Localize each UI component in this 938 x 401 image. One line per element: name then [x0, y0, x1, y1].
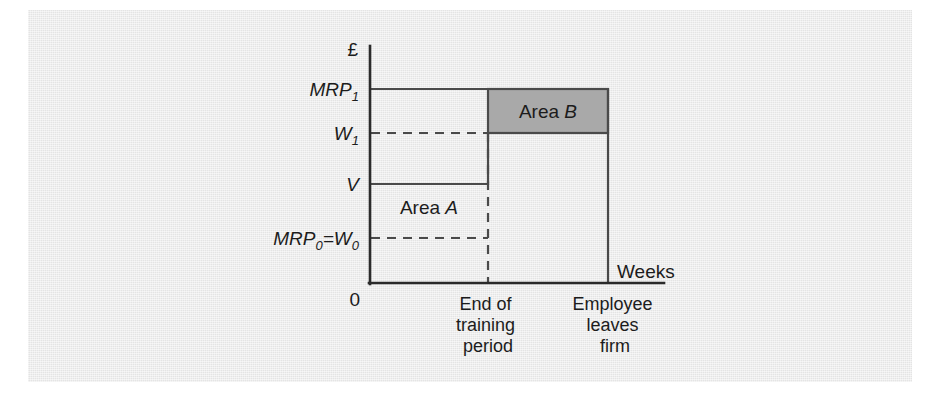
- y-axis-symbol-label: £: [347, 39, 358, 60]
- economics-diagram: £ MRP1 W1 V MRP0=W0 0 Weeks Area A Area …: [0, 0, 938, 401]
- area-b-label: Area B: [519, 101, 577, 122]
- y-tick-label-w1: W1: [334, 123, 359, 148]
- y-tick-label-v: V: [346, 174, 361, 195]
- y-tick-label-mrp1: MRP1: [310, 79, 359, 104]
- area-a-label: Area A: [400, 197, 458, 218]
- y-tick-label-mrp0-w0: MRP0=W0: [273, 228, 360, 253]
- origin-label: 0: [349, 289, 360, 310]
- x-tick-label-end-of-training: End of training period: [456, 294, 520, 356]
- figure-root: £ MRP1 W1 V MRP0=W0 0 Weeks Area A Area …: [0, 0, 938, 401]
- x-axis-label-weeks: Weeks: [617, 261, 675, 282]
- x-tick-label-employee-leaves: Employee leaves firm: [572, 294, 657, 356]
